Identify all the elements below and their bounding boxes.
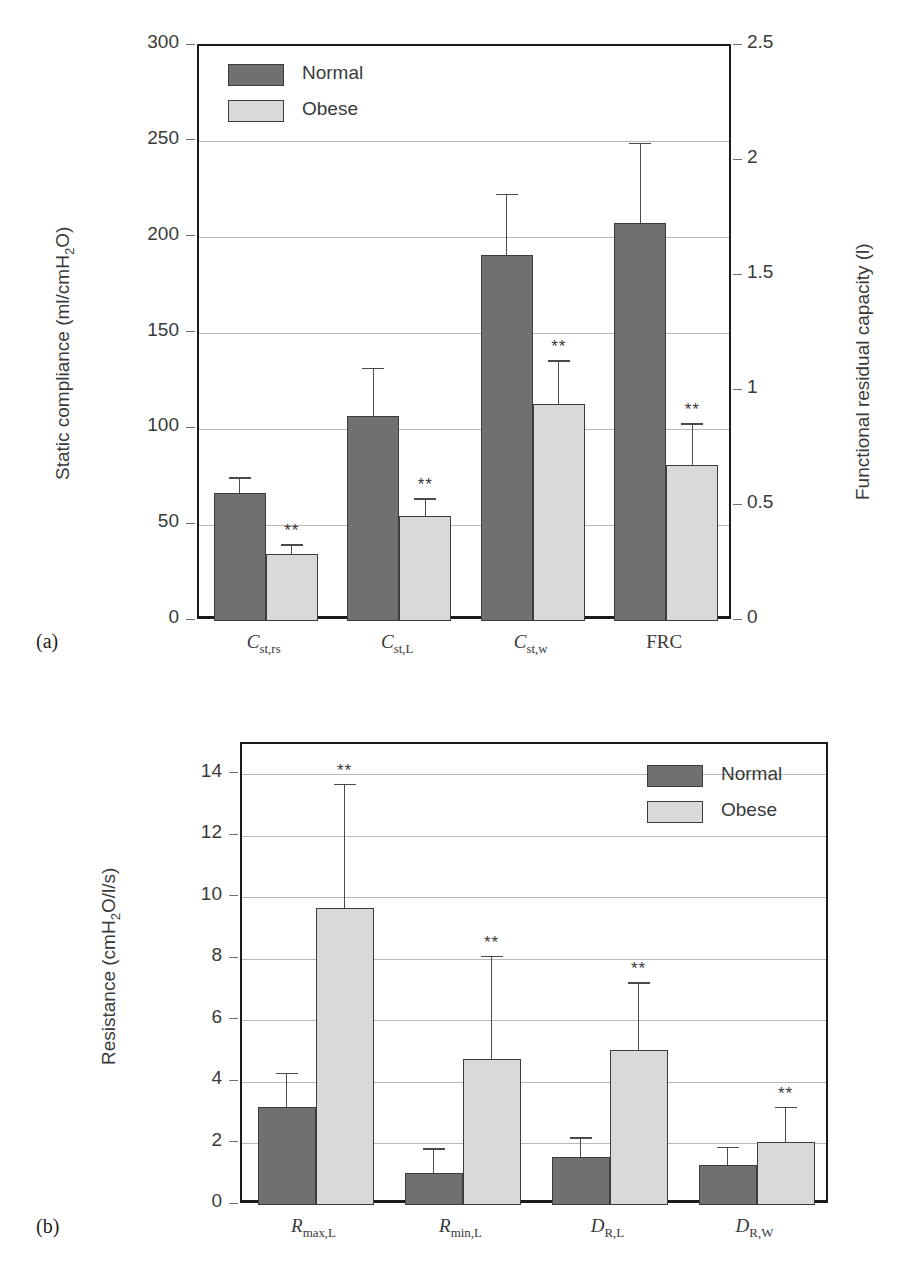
y2-title-post: O/l/s) bbox=[98, 868, 119, 913]
y-tick-label: 0 bbox=[111, 606, 179, 628]
category-label-1: Cst,L bbox=[327, 631, 467, 657]
bar-normal-2 bbox=[552, 1157, 610, 1205]
y-tick bbox=[229, 1080, 238, 1081]
y-tick-label: 12 bbox=[154, 821, 222, 843]
y2-title-sub: 2 bbox=[108, 913, 123, 920]
y2-tick bbox=[733, 504, 742, 505]
category-label-0: Rmax,L bbox=[244, 1215, 384, 1241]
y-tick-label: 300 bbox=[111, 31, 179, 53]
legend-label-normal: Normal bbox=[302, 62, 363, 84]
bar-obese-0 bbox=[266, 554, 318, 621]
error-bar-cap-3-1 bbox=[681, 423, 703, 424]
y-title-sub: 2 bbox=[62, 248, 77, 255]
bar-normal-0 bbox=[214, 493, 266, 621]
bar-obese-2 bbox=[610, 1050, 668, 1205]
error-bar-stem-1-1 bbox=[491, 956, 492, 1059]
error-bar-stem-1-1 bbox=[425, 498, 426, 515]
y2-title-pre: Resistance (cmH bbox=[98, 920, 119, 1065]
error-bar-cap-0-0 bbox=[276, 1073, 298, 1074]
y-title-post: O) bbox=[52, 227, 73, 248]
bar-normal-3 bbox=[699, 1165, 757, 1205]
panel-b-letter: (b) bbox=[36, 1215, 59, 1238]
error-bar-stem-3-1 bbox=[692, 423, 693, 464]
error-bar-stem-2-1 bbox=[558, 360, 559, 404]
error-bar-stem-0-1 bbox=[344, 784, 345, 908]
bar-obese-2 bbox=[533, 404, 585, 621]
y-tick-label: 150 bbox=[111, 319, 179, 341]
y2-tick bbox=[733, 159, 742, 160]
y2-tick-label: 1.5 bbox=[747, 261, 807, 283]
legend-label-obese: Obese bbox=[302, 98, 358, 120]
y-tick-label: 50 bbox=[111, 510, 179, 532]
category-label-2: DR,L bbox=[538, 1215, 678, 1241]
y2-tick-label: 2 bbox=[747, 146, 807, 168]
significance-marker-3-1: ** bbox=[762, 1084, 810, 1104]
significance-marker-1-1: ** bbox=[401, 475, 449, 495]
bar-obese-1 bbox=[463, 1059, 521, 1205]
error-bar-stem-3-1 bbox=[785, 1107, 786, 1142]
y-tick bbox=[186, 427, 195, 428]
significance-marker-1-1: ** bbox=[468, 933, 516, 953]
y2-tick bbox=[733, 44, 742, 45]
y-tick-label: 8 bbox=[154, 944, 222, 966]
bar-obese-1 bbox=[399, 516, 451, 621]
error-bar-stem-0-0 bbox=[286, 1073, 287, 1107]
y-tick-label: 250 bbox=[111, 127, 179, 149]
legend-label-obese: Obese bbox=[721, 799, 777, 821]
y-tick-label: 14 bbox=[154, 760, 222, 782]
error-bar-cap-3-0 bbox=[717, 1147, 739, 1148]
y-tick bbox=[186, 619, 195, 620]
category-label-3: DR,W bbox=[685, 1215, 825, 1241]
error-bar-cap-2-0 bbox=[570, 1137, 592, 1138]
panel-b-y-axis-title: Resistance (cmH2O/l/s) bbox=[98, 868, 123, 1065]
y2-tick bbox=[733, 389, 742, 390]
legend-swatch-obese bbox=[228, 100, 284, 122]
y-title-pre: Static compliance (ml/cmH bbox=[52, 255, 73, 480]
bar-normal-1 bbox=[405, 1173, 463, 1205]
panel-a-letter: (a) bbox=[36, 630, 58, 653]
significance-marker-3-1: ** bbox=[668, 400, 716, 420]
y-tick bbox=[229, 772, 238, 773]
bar-obese-0 bbox=[316, 908, 374, 1205]
error-bar-stem-0-1 bbox=[291, 544, 292, 554]
y2-tick bbox=[733, 274, 742, 275]
y-tick bbox=[186, 44, 195, 45]
error-bar-cap-3-1 bbox=[775, 1107, 797, 1108]
bar-normal-2 bbox=[481, 255, 533, 621]
y-tick-label: 100 bbox=[111, 414, 179, 436]
significance-marker-2-1: ** bbox=[535, 337, 583, 357]
y-tick bbox=[229, 1141, 238, 1142]
error-bar-cap-2-0 bbox=[496, 194, 518, 195]
y-tick-label: 4 bbox=[154, 1067, 222, 1089]
error-bar-cap-0-0 bbox=[229, 477, 251, 478]
error-bar-cap-1-1 bbox=[414, 498, 436, 499]
y2-tick-label: 0.5 bbox=[747, 491, 807, 513]
error-bar-cap-0-1 bbox=[334, 784, 356, 785]
error-bar-cap-3-0 bbox=[629, 143, 651, 144]
bar-obese-3 bbox=[666, 465, 718, 621]
legend-swatch-normal bbox=[228, 64, 284, 86]
error-bar-stem-3-0 bbox=[727, 1147, 728, 1165]
y-tick bbox=[229, 895, 238, 896]
bar-normal-3 bbox=[614, 223, 666, 621]
y-tick bbox=[186, 235, 195, 236]
category-label-2: Cst,w bbox=[461, 631, 601, 657]
panel-a-y2-axis-title: Functional residual capacity (l) bbox=[852, 243, 874, 500]
error-bar-stem-3-0 bbox=[640, 143, 641, 224]
error-bar-cap-2-1 bbox=[628, 982, 650, 983]
legend-swatch-obese bbox=[647, 801, 703, 823]
y-tick bbox=[186, 523, 195, 524]
y-tick bbox=[229, 1018, 238, 1019]
y-tick bbox=[186, 139, 195, 140]
y-tick-label: 2 bbox=[154, 1129, 222, 1151]
significance-marker-0-1: ** bbox=[268, 521, 316, 541]
error-bar-cap-2-1 bbox=[548, 360, 570, 361]
panel-a-y-axis-title: Static compliance (ml/cmH2O) bbox=[52, 227, 77, 480]
significance-marker-2-1: ** bbox=[615, 959, 663, 979]
category-label-3: FRC bbox=[594, 631, 734, 653]
y-tick bbox=[229, 957, 238, 958]
error-bar-stem-0-0 bbox=[239, 477, 240, 492]
error-bar-stem-2-1 bbox=[638, 982, 639, 1050]
error-bar-stem-2-0 bbox=[580, 1137, 581, 1157]
y2-tick-label: 2.5 bbox=[747, 31, 807, 53]
